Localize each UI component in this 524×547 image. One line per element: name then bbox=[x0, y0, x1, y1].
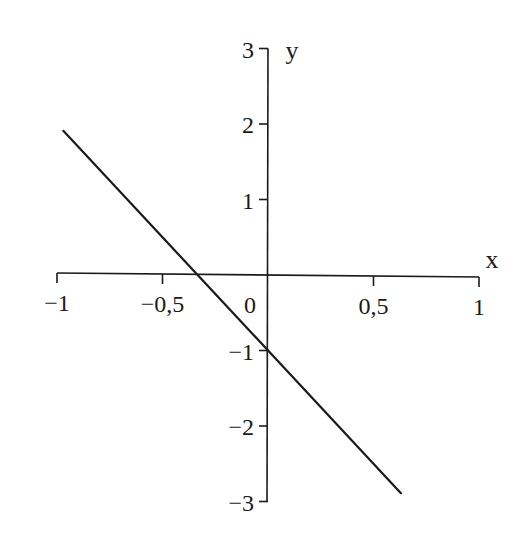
x-tick-label: 1 bbox=[473, 294, 485, 320]
y-axis-label: y bbox=[286, 36, 299, 65]
y-tick-label: −3 bbox=[228, 490, 254, 516]
x-tick-label: 0,5 bbox=[359, 293, 389, 319]
x-axis-label: x bbox=[486, 245, 499, 274]
y-tick-label: 1 bbox=[242, 188, 254, 214]
x-tick-label: 0 bbox=[244, 292, 256, 318]
y-axis bbox=[267, 49, 268, 502]
line-chart: −1−0,500,51−3−2−1123xy bbox=[0, 0, 524, 547]
x-tick-label: −1 bbox=[44, 290, 70, 316]
y-tick-label: 3 bbox=[242, 37, 254, 63]
y-tick-label: 2 bbox=[242, 112, 254, 138]
axes bbox=[57, 49, 479, 502]
x-tick-label: −0,5 bbox=[141, 291, 185, 317]
y-tick-label: −2 bbox=[228, 414, 254, 440]
y-tick-label: −1 bbox=[228, 339, 254, 365]
